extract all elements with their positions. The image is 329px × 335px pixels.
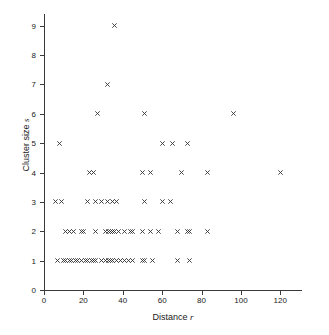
- x-tick-mark: [241, 291, 242, 295]
- data-point-marker: [91, 170, 96, 175]
- x-tick-mark: [123, 291, 124, 295]
- data-point-marker: [142, 258, 147, 263]
- data-point-marker: [156, 229, 161, 234]
- x-tick-mark: [202, 291, 203, 295]
- x-tick-label: 80: [187, 296, 217, 305]
- data-point-marker: [205, 229, 210, 234]
- y-tick-mark: [40, 114, 44, 115]
- y-tick-label: 8: [22, 51, 36, 60]
- x-tick-label: 120: [265, 296, 295, 305]
- data-point-marker: [187, 229, 192, 234]
- y-axis-label-text: Cluster size: [21, 125, 31, 172]
- data-point-marker: [130, 229, 135, 234]
- data-point-marker: [231, 111, 236, 116]
- data-point-marker: [278, 170, 283, 175]
- data-point-marker: [142, 199, 147, 204]
- data-point-marker: [175, 258, 180, 263]
- x-tick-label: 60: [147, 296, 177, 305]
- data-point-marker: [160, 199, 165, 204]
- data-point-marker: [95, 111, 100, 116]
- data-point-marker: [148, 229, 153, 234]
- x-tick-label: 0: [29, 296, 59, 305]
- data-point-marker: [93, 258, 98, 263]
- data-point-marker: [53, 199, 58, 204]
- data-point-marker: [187, 258, 192, 263]
- data-point-marker: [148, 170, 153, 175]
- data-point-marker: [105, 82, 110, 87]
- y-tick-mark: [40, 26, 44, 27]
- x-axis-label-text: Distance: [152, 312, 187, 322]
- data-point-marker: [140, 170, 145, 175]
- x-tick-mark: [280, 291, 281, 295]
- x-tick-mark: [83, 291, 84, 295]
- data-point-marker: [116, 229, 121, 234]
- plot-area: [44, 14, 300, 290]
- y-axis-label: Cluster size s: [21, 65, 31, 225]
- x-tick-label: 40: [108, 296, 138, 305]
- x-axis-label: Distance r: [44, 312, 302, 322]
- data-point-marker: [160, 141, 165, 146]
- data-point-marker: [140, 229, 145, 234]
- y-tick-label: 9: [22, 22, 36, 31]
- data-point-marker: [93, 229, 98, 234]
- data-point-marker: [179, 170, 184, 175]
- data-point-marker: [168, 199, 173, 204]
- data-point-marker: [71, 229, 76, 234]
- x-tick-label: 100: [226, 296, 256, 305]
- y-tick-mark: [40, 143, 44, 144]
- data-point-marker: [150, 258, 155, 263]
- data-point-marker: [170, 141, 175, 146]
- data-point-marker: [185, 141, 190, 146]
- y-tick-label: 1: [22, 257, 36, 266]
- data-point-marker: [112, 23, 117, 28]
- y-tick-mark: [40, 84, 44, 85]
- data-point-marker: [130, 258, 135, 263]
- scatter-plot-figure: 020406080100120 0123456789 Distance r Cl…: [0, 0, 329, 335]
- y-tick-mark: [40, 173, 44, 174]
- y-tick-mark: [40, 202, 44, 203]
- data-point-marker: [99, 199, 104, 204]
- data-point-marker: [81, 229, 86, 234]
- x-tick-label: 20: [68, 296, 98, 305]
- data-point-marker: [93, 199, 98, 204]
- data-point-marker: [55, 258, 60, 263]
- data-point-marker: [114, 199, 119, 204]
- data-point-marker: [59, 199, 64, 204]
- data-point-marker: [105, 199, 110, 204]
- data-point-marker: [175, 229, 180, 234]
- x-tick-mark: [44, 291, 45, 295]
- y-axis-line: [44, 14, 45, 291]
- data-point-marker: [122, 229, 127, 234]
- y-tick-mark: [40, 290, 44, 291]
- y-tick-mark: [40, 55, 44, 56]
- data-point-marker: [57, 141, 62, 146]
- y-tick-mark: [40, 231, 44, 232]
- x-tick-mark: [162, 291, 163, 295]
- y-tick-mark: [40, 261, 44, 262]
- data-point-marker: [85, 199, 90, 204]
- data-point-marker: [142, 111, 147, 116]
- x-axis-label-variable: r: [190, 312, 194, 322]
- y-axis-label-variable: s: [21, 118, 31, 122]
- y-tick-label: 2: [22, 227, 36, 236]
- y-tick-label: 0: [22, 286, 36, 295]
- data-point-marker: [205, 170, 210, 175]
